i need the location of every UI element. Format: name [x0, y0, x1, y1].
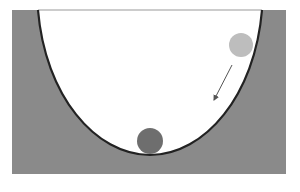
- ball-at-rest: [137, 128, 163, 154]
- ball-ghost: [229, 33, 253, 57]
- bowl-diagram: [0, 0, 300, 192]
